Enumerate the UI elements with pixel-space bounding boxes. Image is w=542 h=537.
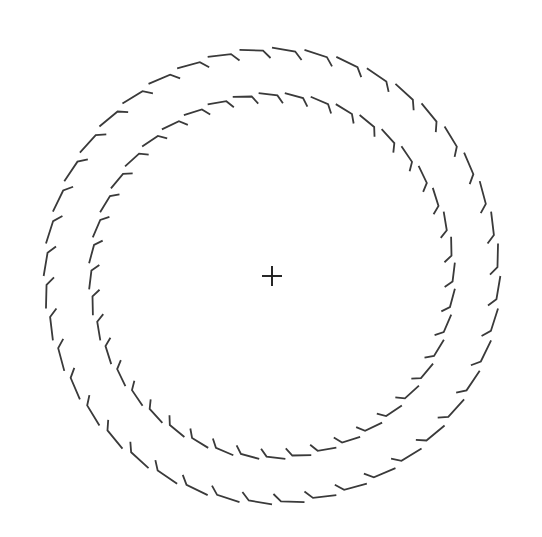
ring-illusion-figure: [0, 0, 542, 537]
figure-canvas-container: [0, 0, 542, 537]
